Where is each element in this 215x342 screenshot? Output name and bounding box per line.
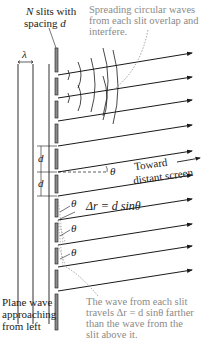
theta-arc xyxy=(106,166,107,172)
theta-label-1: θ xyxy=(71,198,76,209)
plane-wavefronts xyxy=(18,64,49,324)
spreading-label-1: Spreading circular waves xyxy=(89,4,195,15)
spreading-label-3: interfere. xyxy=(89,26,127,37)
plane-wave-label-1: Plane wave xyxy=(2,297,52,308)
travels-label-4: slit above it. xyxy=(86,329,138,340)
travels-label-3: than the wave from the xyxy=(86,318,183,329)
n-slits-pointer xyxy=(49,28,56,48)
theta-reference-label: θ xyxy=(110,166,115,177)
theta-label-3: θ xyxy=(71,247,76,258)
n-slits-label: N slits with xyxy=(26,6,76,17)
plane-wave-label-2: approaching xyxy=(2,309,56,320)
slit-barrier xyxy=(55,48,58,330)
path-difference-label: Δr = d sinθ xyxy=(86,201,141,212)
d-label-lower: d xyxy=(38,178,44,189)
travels-pointer xyxy=(62,265,98,296)
travels-label-1: The wave from each slit xyxy=(86,296,187,307)
d-label-upper: d xyxy=(38,153,44,164)
lambda-dimension xyxy=(18,61,33,64)
travels-label-2: travels Δr = d sinθ farther xyxy=(86,307,194,318)
plane-wave-label-3: from left xyxy=(2,321,41,332)
spreading-label-2: from each slit overlap and xyxy=(89,15,199,26)
lambda-label: λ xyxy=(22,49,27,60)
theta-label-2: θ xyxy=(71,223,76,234)
toward-arrow xyxy=(177,158,200,162)
spacing-label: spacing d xyxy=(24,18,66,29)
